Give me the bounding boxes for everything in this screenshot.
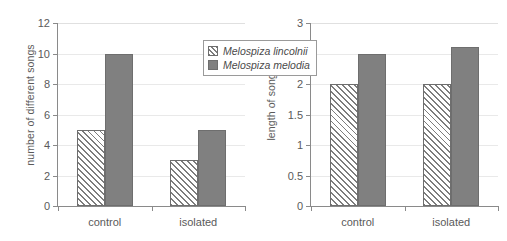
gridline <box>58 23 245 24</box>
x-axis-end-tick <box>245 206 246 211</box>
y-axis-tick <box>306 23 311 24</box>
y-axis-tick-label: 2 <box>297 78 303 90</box>
y-axis-tick <box>53 84 58 85</box>
x-axis-tick-label-isolated: isolated <box>179 216 217 228</box>
y-axis-tick <box>306 176 311 177</box>
bar-isolated-lincolnii <box>423 84 451 206</box>
y-axis-tick-label: 4 <box>44 139 50 151</box>
y-axis-tick-label: 6 <box>44 109 50 121</box>
gridline <box>58 115 245 116</box>
y-axis-tick-label: 0 <box>44 200 50 212</box>
hatched-swatch-icon <box>208 46 218 56</box>
y-axis-tick-label: 2 <box>44 170 50 182</box>
y-axis-tick-label: 0.5 <box>288 170 303 182</box>
y-axis-tick <box>306 84 311 85</box>
x-axis-tick <box>405 206 406 211</box>
y-axis-tick <box>53 176 58 177</box>
y-axis-tick-label: 8 <box>44 78 50 90</box>
legend-box: Melospiza lincolnii Melospiza melodia <box>203 40 317 76</box>
x-axis-end-tick <box>498 206 499 211</box>
y-axis-label-left: number of different songs <box>22 10 38 200</box>
legend-label-lincolnii: Melospiza lincolnii <box>223 45 308 57</box>
solid-grey-swatch-icon <box>208 60 218 70</box>
plot-area-right: 00.511.522.53controlisolated <box>310 23 498 207</box>
y-axis-label-right: length of songs / s <box>263 2 279 192</box>
x-axis-tick-label-control: control <box>341 216 374 228</box>
x-axis-tick-label-isolated: isolated <box>432 216 470 228</box>
two-panel-bar-chart-figure: number of different songs Melospiza linc… <box>0 0 507 241</box>
gridline <box>311 23 498 24</box>
bar-isolated-melodia <box>198 130 226 206</box>
x-axis-end-tick <box>58 206 59 211</box>
plot-area-left: Melospiza lincolnii Melospiza melodia 02… <box>57 23 245 207</box>
legend-item-lincolnii: Melospiza lincolnii <box>208 44 310 58</box>
legend-item-melodia: Melospiza melodia <box>208 58 310 72</box>
y-axis-tick-label: 1.5 <box>288 109 303 121</box>
bar-control-lincolnii <box>77 130 105 206</box>
gridline <box>58 84 245 85</box>
x-axis-tick-label-control: control <box>88 216 121 228</box>
bar-isolated-lincolnii <box>170 160 198 206</box>
bar-control-melodia <box>105 54 133 207</box>
y-axis-tick <box>53 54 58 55</box>
bar-control-lincolnii <box>330 84 358 206</box>
chart-panel-length-of-songs: length of songs / s 00.511.522.53control… <box>253 0 506 241</box>
bar-control-melodia <box>358 54 386 207</box>
y-axis-tick-label: 12 <box>38 17 50 29</box>
x-axis-tick <box>152 206 153 211</box>
x-axis-end-tick <box>311 206 312 211</box>
y-axis-tick <box>53 115 58 116</box>
y-axis-tick-label: 0 <box>297 200 303 212</box>
y-axis-tick <box>306 145 311 146</box>
y-axis-tick-label: 10 <box>38 48 50 60</box>
legend-label-melodia: Melospiza melodia <box>223 59 310 71</box>
bar-isolated-melodia <box>451 47 479 206</box>
y-axis-tick <box>53 23 58 24</box>
chart-panel-number-of-different-songs: number of different songs Melospiza linc… <box>0 0 253 241</box>
y-axis-tick <box>306 115 311 116</box>
y-axis-tick-label: 1 <box>297 139 303 151</box>
y-axis-tick-label: 3 <box>297 17 303 29</box>
y-axis-tick <box>53 145 58 146</box>
